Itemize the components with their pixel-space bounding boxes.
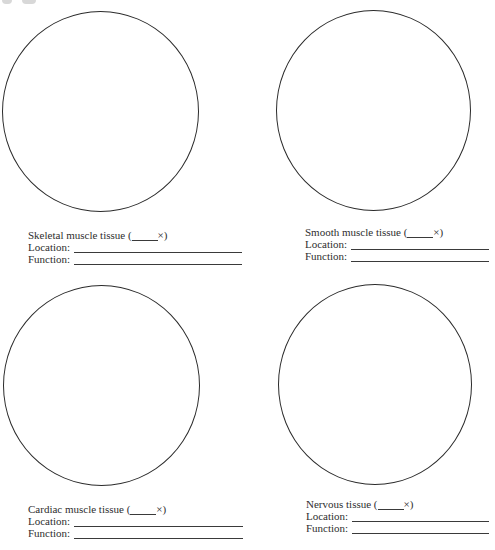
magnification-blank[interactable] [407,228,433,238]
caption-smooth: Smooth muscle tissue ( ×) Location: Func… [305,226,489,262]
scan-artifact [22,0,36,4]
location-blank[interactable] [352,512,489,522]
magnification-suffix: ×) [158,229,168,241]
tissue-title: Nervous tissue ( [306,498,378,510]
scan-artifact [2,0,12,4]
function-blank[interactable] [74,529,243,539]
function-label: Function: [28,253,70,265]
function-blank[interactable] [74,255,242,265]
location-label: Location: [28,241,70,253]
location-label: Location: [306,510,348,522]
caption-cardiac: Cardiac muscle tissue ( ×) Location: Fun… [28,503,243,539]
drawing-circle-cardiac[interactable] [3,285,200,486]
tissue-title: Cardiac muscle tissue ( [28,503,130,515]
location-blank[interactable] [351,240,489,250]
tissue-title: Smooth muscle tissue ( [305,226,407,238]
drawing-circle-smooth[interactable] [276,10,471,211]
location-blank[interactable] [74,243,242,253]
magnification-blank[interactable] [130,505,156,515]
magnification-suffix: ×) [404,498,414,510]
location-blank[interactable] [74,517,243,527]
magnification-suffix: ×) [433,226,443,238]
tissue-title: Skeletal muscle tissue ( [28,229,132,241]
magnification-suffix: ×) [156,503,166,515]
function-label: Function: [306,522,348,534]
function-blank[interactable] [352,524,489,534]
location-label: Location: [28,515,70,527]
drawing-circle-skeletal[interactable] [2,11,199,212]
magnification-blank[interactable] [378,500,404,510]
drawing-circle-nervous[interactable] [278,284,472,485]
magnification-blank[interactable] [132,231,158,241]
caption-nervous: Nervous tissue ( ×) Location: Function: [306,498,489,534]
function-blank[interactable] [351,252,489,262]
location-label: Location: [305,238,347,250]
caption-skeletal: Skeletal muscle tissue ( ×) Location: Fu… [28,229,242,265]
function-label: Function: [305,250,347,262]
function-label: Function: [28,527,70,539]
